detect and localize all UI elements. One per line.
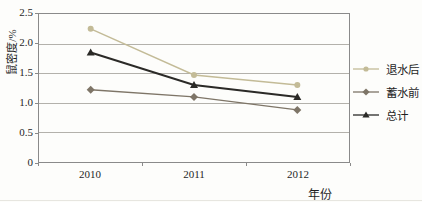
diamond-legend-marker-icon (353, 86, 379, 98)
diamond-data-point-marker (87, 86, 95, 94)
legend-item-0: 退水后 (353, 62, 419, 76)
y-axis-tick-mark (35, 103, 38, 104)
legend-item-2: 总计 (353, 108, 419, 122)
legend-item-label: 蓄水前 (386, 84, 419, 100)
triangle-legend-marker-icon (353, 109, 379, 121)
x-axis-tick-label: 2010 (68, 168, 112, 181)
circle-data-point-marker (294, 82, 300, 88)
diamond-data-point-marker (362, 88, 369, 95)
y-axis-tick-mark (35, 13, 38, 14)
y-axis-tick-mark (35, 73, 38, 74)
plot-area (38, 13, 350, 163)
circle-data-point-marker (88, 26, 94, 32)
circle-legend-marker-icon (353, 63, 379, 75)
legend-item-1: 蓄水前 (353, 85, 419, 99)
triangle-data-point-marker (87, 48, 95, 55)
legend-item-label: 总计 (386, 107, 408, 123)
y-axis-tick-label: 0.5 (0, 126, 33, 139)
series-plot (39, 14, 349, 162)
y-axis-tick-mark (35, 43, 38, 44)
diamond-data-point-marker (293, 106, 301, 114)
y-axis-tick-mark (35, 133, 38, 134)
x-axis-tick-mark (350, 163, 351, 166)
circle-data-point-marker (191, 72, 197, 78)
diamond-data-point-marker (190, 93, 198, 101)
legend-item-label: 退水后 (386, 61, 419, 77)
x-axis-tick-label: 2012 (276, 168, 320, 181)
x-axis-tick-mark (38, 163, 39, 166)
x-axis-tick-label: 2011 (172, 168, 216, 181)
legend: 退水后蓄水前总计 (353, 62, 419, 122)
x-axis-tick-mark (246, 163, 247, 166)
circle-data-point-marker (363, 66, 368, 71)
x-axis-tick-mark (142, 163, 143, 166)
scan-artifact-line (0, 200, 422, 201)
line-chart-figure: 鼠密度/% 2.52.01.51.00.50 201020112012 年份 退… (0, 0, 422, 202)
y-axis-tick-label: 0 (0, 156, 33, 169)
y-axis-tick-label: 2.5 (0, 6, 33, 19)
y-axis-tick-label: 1.0 (0, 96, 33, 109)
y-axis-tick-label: 2.0 (0, 36, 33, 49)
y-axis-tick-label: 1.5 (0, 66, 33, 79)
